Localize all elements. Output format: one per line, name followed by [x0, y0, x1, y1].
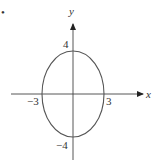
y-axis-label: y	[68, 5, 74, 17]
label-right: 3	[106, 95, 112, 107]
label-left: −3	[27, 95, 39, 107]
x-axis-label: x	[145, 88, 151, 100]
list-bullet-marker: •	[1, 6, 5, 18]
ellipse-chart: • x y 4 −4 −3 3	[0, 0, 156, 161]
label-bottom: −4	[56, 139, 68, 151]
label-top: 4	[63, 38, 69, 50]
